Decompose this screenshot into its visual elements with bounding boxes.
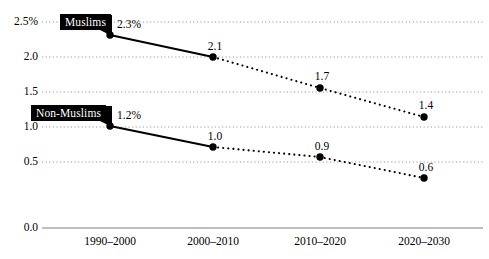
y-tick-2.0: 2.0: [0, 51, 38, 63]
data-label-muslims-2020-2030: 1.4: [419, 100, 433, 112]
y-tick-0.5: 0.5: [0, 156, 38, 168]
data-label-muslims-2000-2010: 2.1: [208, 41, 222, 53]
series-label-non-muslims: Non-Muslims: [31, 105, 106, 121]
chart-plot-area: [0, 0, 489, 259]
x-tick-2010-2020: 2010–2020: [294, 236, 346, 248]
data-label-muslims-1990-2000: 2.3%: [117, 19, 141, 31]
y-tick-0.0: 0.0: [0, 222, 38, 234]
data-label-non-muslims-2020-2030: 0.6: [419, 162, 433, 174]
growth-rate-line-chart: 2.5% 2.0 1.5 1.0 0.5 0.0 1990–2000 2000–…: [0, 0, 489, 259]
y-tick-1.0: 1.0: [0, 121, 38, 133]
series-non-muslims: [106, 122, 427, 181]
x-tick-2000-2010: 2000–2010: [187, 236, 239, 248]
series-label-muslims: Muslims: [60, 14, 111, 30]
y-tick-1.5: 1.5: [0, 86, 38, 98]
data-label-non-muslims-1990-2000: 1.2%: [117, 110, 141, 122]
data-label-muslims-2010-2020: 1.7: [315, 71, 329, 83]
data-label-non-muslims-2000-2010: 1.0: [208, 131, 222, 143]
x-tick-1990-2000: 1990–2000: [84, 236, 136, 248]
data-label-non-muslims-2010-2020: 0.9: [315, 141, 329, 153]
x-tick-2020-2030: 2020–2030: [398, 236, 450, 248]
y-tick-2.5: 2.5%: [0, 16, 38, 28]
gridlines: [42, 22, 483, 162]
series-muslims: [106, 31, 427, 120]
